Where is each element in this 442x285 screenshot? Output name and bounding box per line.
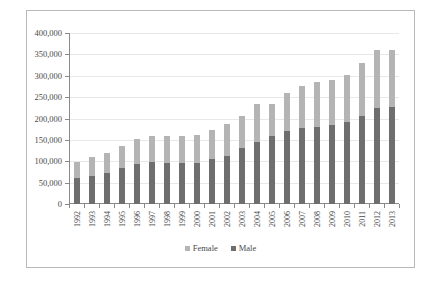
x-axis-label-2008: 2008 (312, 211, 321, 227)
bar-segment-male (374, 108, 380, 204)
x-axis-tick (189, 204, 190, 208)
x-axis-label-2012: 2012 (372, 211, 381, 227)
bar-segment-female (134, 139, 140, 164)
bar-2005 (269, 104, 275, 204)
legend-label: Male (239, 243, 256, 253)
bar-segment-female (389, 50, 395, 108)
bar-segment-female (104, 153, 110, 173)
x-axis-label-1999: 1999 (177, 211, 186, 227)
x-axis-label-2009: 2009 (327, 211, 336, 227)
x-axis-label-2010: 2010 (342, 211, 351, 227)
y-axis-tick (65, 183, 69, 184)
x-axis-tick (249, 204, 250, 208)
bar-2010 (344, 75, 350, 204)
x-axis-label-1995: 1995 (117, 211, 126, 227)
x-axis-tick (204, 204, 205, 208)
x-axis-tick (84, 204, 85, 208)
x-axis-label-1994: 1994 (102, 211, 111, 227)
x-axis-label-2000: 2000 (192, 211, 201, 227)
bar-segment-male (329, 125, 335, 205)
bar-1993 (89, 157, 95, 204)
bar-2009 (329, 80, 335, 204)
gridline (69, 140, 399, 141)
y-axis-tick (65, 54, 69, 55)
x-axis-tick (384, 204, 385, 208)
bar-2011 (359, 63, 365, 204)
bar-2000 (194, 135, 200, 204)
x-axis-tick (219, 204, 220, 208)
bar-segment-female (284, 93, 290, 131)
bar-segment-male (104, 173, 110, 204)
bar-segment-male (194, 163, 200, 204)
bar-segment-male (164, 163, 170, 204)
bar-segment-male (284, 131, 290, 204)
bar-segment-male (359, 116, 365, 204)
x-axis-label-2005: 2005 (267, 211, 276, 227)
x-axis-tick (114, 204, 115, 208)
bar-segment-female (74, 162, 80, 178)
bar-segment-male (389, 107, 395, 204)
bar-segment-female (179, 136, 185, 163)
x-axis-tick (99, 204, 100, 208)
bar-segment-male (179, 163, 185, 204)
bar-segment-female (299, 86, 305, 129)
chart-legend: FemaleMale (27, 243, 414, 253)
bar-segment-female (344, 75, 350, 121)
x-axis-label-2003: 2003 (237, 211, 246, 227)
bar-1994 (104, 153, 110, 204)
x-axis-tick (369, 204, 370, 208)
bar-segment-male (119, 168, 125, 204)
y-axis-tick-label: 0 (58, 199, 62, 209)
y-axis-tick-label: 200,000 (34, 114, 62, 124)
y-axis-tick-label: 400,000 (34, 28, 62, 38)
bar-2008 (314, 82, 320, 204)
bar-segment-male (89, 176, 95, 204)
bar-segment-female (359, 63, 365, 116)
legend-label: Female (193, 243, 218, 253)
bar-1992 (74, 162, 80, 204)
bar-2007 (299, 86, 305, 204)
x-axis-tick (234, 204, 235, 208)
x-axis-label-2004: 2004 (252, 211, 261, 227)
bar-segment-female (209, 130, 215, 159)
legend-item-male[interactable]: Male (231, 243, 256, 253)
bar-segment-male (74, 178, 80, 204)
bar-segment-male (269, 136, 275, 204)
x-axis-label-2007: 2007 (297, 211, 306, 227)
legend-swatch-icon (231, 246, 236, 251)
bar-2013 (389, 50, 395, 204)
gridline (69, 76, 399, 77)
bar-segment-male (239, 148, 245, 204)
legend-item-female[interactable]: Female (185, 243, 218, 253)
x-axis-tick (399, 204, 400, 208)
bar-2004 (254, 104, 260, 204)
x-axis-tick (324, 204, 325, 208)
y-axis-tick-label: 150,000 (34, 135, 62, 145)
bar-1997 (149, 136, 155, 204)
y-axis-tick (65, 76, 69, 77)
bar-1999 (179, 136, 185, 204)
bar-1995 (119, 146, 125, 204)
x-axis-tick (159, 204, 160, 208)
x-axis-tick (264, 204, 265, 208)
x-axis-label-2006: 2006 (282, 211, 291, 227)
bar-segment-female (119, 146, 125, 168)
bar-2003 (239, 116, 245, 204)
y-axis-tick-label: 300,000 (34, 71, 62, 81)
bar-segment-female (329, 80, 335, 125)
bar-segment-male (344, 122, 350, 205)
bar-segment-female (314, 82, 320, 127)
x-axis-label-1993: 1993 (87, 211, 96, 227)
gridline (69, 97, 399, 98)
x-axis-label-2011: 2011 (357, 211, 366, 227)
bar-segment-female (374, 50, 380, 108)
bar-1998 (164, 136, 170, 204)
x-axis-label-1992: 1992 (72, 211, 81, 227)
bar-segment-female (149, 136, 155, 162)
x-axis-tick (69, 204, 70, 208)
x-axis-label-1997: 1997 (147, 211, 156, 227)
bar-segment-female (239, 116, 245, 148)
y-axis-tick-label: 50,000 (39, 178, 62, 188)
x-axis-tick (354, 204, 355, 208)
bar-2012 (374, 50, 380, 204)
